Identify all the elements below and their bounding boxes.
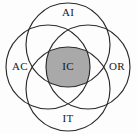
venn-diagram-canvas: AI AC OR IT IC (0, 0, 137, 134)
label-it: IT (63, 112, 74, 124)
venn-diagram: AI AC OR IT IC (0, 0, 137, 134)
label-ai: AI (62, 6, 74, 18)
label-or: OR (109, 60, 125, 72)
label-ic: IC (62, 60, 74, 72)
label-ac: AC (12, 60, 28, 72)
